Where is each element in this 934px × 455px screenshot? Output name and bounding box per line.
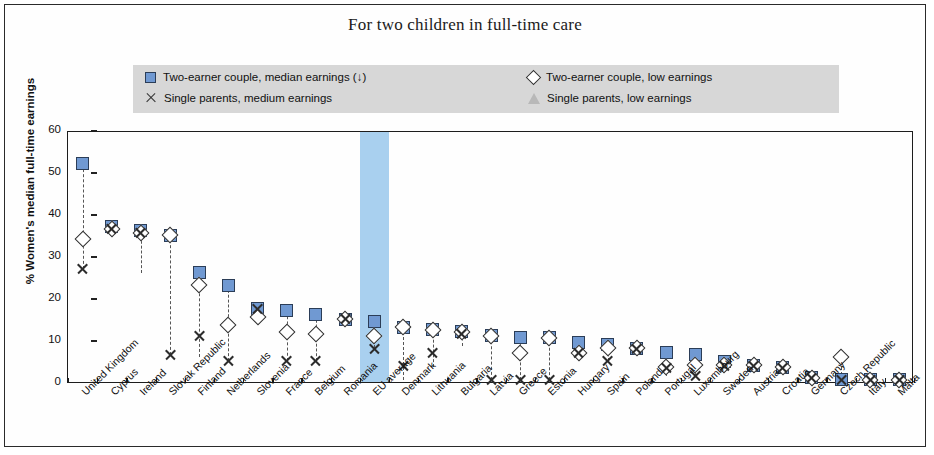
data-point-x[interactable]: [339, 313, 352, 326]
data-point-diamond[interactable]: [512, 344, 529, 361]
data-point-x[interactable]: [455, 327, 468, 340]
x-axis-tick-mark: [68, 378, 69, 383]
triangle-marker-icon: [528, 93, 540, 104]
chart-legend: Two-earner couple, median earnings (↓) S…: [133, 65, 839, 113]
diamond-marker-icon: [526, 69, 542, 85]
data-point-diamond[interactable]: [220, 317, 237, 334]
data-point-square[interactable]: [368, 315, 381, 328]
y-axis-tick-label: 40: [37, 207, 61, 219]
data-point-square[interactable]: [514, 331, 527, 344]
legend-item-single-low: Single parents, low earnings: [528, 92, 691, 104]
data-point-x[interactable]: [630, 342, 643, 355]
y-axis-tick-label: 30: [37, 249, 61, 261]
data-point-square[interactable]: [660, 346, 673, 359]
data-point-square[interactable]: [76, 157, 89, 170]
data-point-x[interactable]: [368, 342, 381, 355]
y-axis-ticks: 0102030405060: [35, 5, 61, 455]
data-point-x[interactable]: [193, 329, 206, 342]
data-point-x[interactable]: [134, 226, 147, 239]
legend-label: Single parents, low earnings: [547, 92, 691, 104]
data-point-diamond[interactable]: [191, 277, 208, 294]
data-point-x[interactable]: [309, 355, 322, 368]
legend-label: Two-earner couple, low earnings: [546, 71, 712, 83]
chart-frame: For two children in full-time care Two-e…: [4, 4, 926, 447]
y-axis-tick-label: 10: [37, 333, 61, 345]
legend-label: Single parents, medium earnings: [164, 92, 332, 104]
legend-item-two-earner-low: Two-earner couple, low earnings: [528, 71, 712, 83]
legend-item-two-earner-median: Two-earner couple, median earnings (↓): [145, 71, 366, 83]
square-marker-icon: [145, 72, 156, 83]
data-point-x[interactable]: [222, 355, 235, 368]
data-point-diamond[interactable]: [307, 325, 324, 342]
data-point-x[interactable]: [426, 346, 439, 359]
data-point-x[interactable]: [164, 348, 177, 361]
connector-line: [170, 235, 171, 355]
data-point-diamond[interactable]: [74, 231, 91, 248]
chart-title: For two children in full-time care: [5, 15, 925, 35]
y-axis-tick-label: 20: [37, 291, 61, 303]
y-axis-tick-label: 60: [37, 123, 61, 135]
data-point-x[interactable]: [105, 222, 118, 235]
data-point-square[interactable]: [222, 279, 235, 292]
legend-label: Two-earner couple, median earnings (↓): [163, 71, 366, 83]
data-point-square[interactable]: [309, 308, 322, 321]
data-point-x[interactable]: [251, 302, 264, 315]
connector-line: [83, 164, 84, 269]
data-point-x[interactable]: [572, 346, 585, 359]
data-point-x[interactable]: [76, 262, 89, 275]
legend-item-single-medium: Single parents, medium earnings: [145, 92, 332, 104]
y-axis-tick-label: 50: [37, 165, 61, 177]
y-axis-tick-label: 0: [37, 375, 61, 387]
plot-area: [67, 131, 913, 383]
data-point-square[interactable]: [280, 304, 293, 317]
x-marker-icon: [145, 92, 157, 104]
data-point-diamond[interactable]: [278, 323, 295, 340]
